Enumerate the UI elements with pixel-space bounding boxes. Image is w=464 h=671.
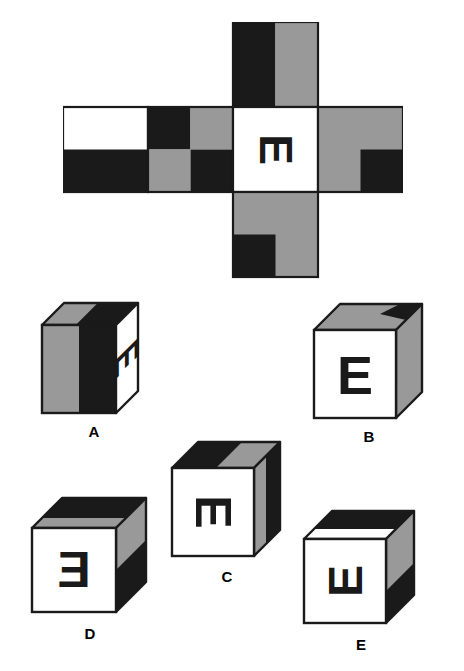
option-a-label: A bbox=[38, 423, 150, 440]
option-cube-c[interactable]: E C bbox=[168, 438, 286, 586]
net-face-3: E bbox=[233, 107, 318, 192]
option-cube-b-graphic: E bbox=[310, 300, 428, 428]
option-c-letter-e: E bbox=[185, 495, 241, 528]
option-b-letter-e: E bbox=[337, 345, 373, 405]
option-cube-b[interactable]: E B bbox=[310, 300, 428, 448]
option-e-label: E bbox=[300, 636, 422, 653]
option-cube-d[interactable]: E D bbox=[28, 492, 152, 644]
cube-net: E bbox=[63, 22, 403, 284]
net-face-4 bbox=[318, 107, 403, 192]
net-face-2 bbox=[148, 107, 233, 192]
net-face-top bbox=[233, 22, 318, 107]
option-d-letter-e: E bbox=[57, 542, 90, 598]
cube-net-graphic: E bbox=[63, 22, 403, 284]
option-b-label: B bbox=[310, 428, 428, 445]
option-cube-e[interactable]: E E bbox=[300, 505, 422, 657]
option-cube-a-graphic: E bbox=[38, 297, 150, 422]
option-cube-c-graphic: E bbox=[168, 438, 286, 566]
net-letter-e: E bbox=[250, 134, 302, 165]
puzzle-canvas: E bbox=[0, 0, 464, 671]
net-face-bottom bbox=[233, 192, 318, 277]
option-e-letter-e: E bbox=[319, 565, 372, 597]
net-face-1 bbox=[63, 107, 148, 192]
option-cube-a[interactable]: E A bbox=[38, 297, 150, 442]
option-d-label: D bbox=[28, 625, 152, 642]
option-cube-e-graphic: E bbox=[300, 505, 422, 637]
option-cube-d-graphic: E bbox=[28, 492, 152, 624]
option-c-label: C bbox=[168, 568, 286, 585]
